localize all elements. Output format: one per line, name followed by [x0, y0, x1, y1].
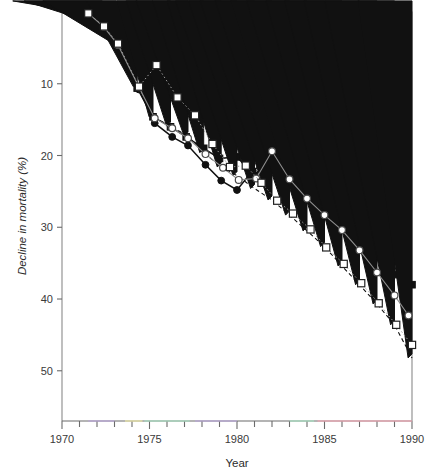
marker-open-circle	[321, 212, 328, 219]
marker-open-circle	[269, 148, 276, 155]
marker-filled-circle	[185, 142, 192, 149]
marker-open-square	[375, 300, 382, 307]
chart-container: 1020304050 19701975198019851990 Decline …	[0, 0, 432, 476]
y-tick-label: 10	[41, 78, 53, 90]
marker-open-square	[393, 321, 400, 328]
marker-open-square	[307, 226, 314, 233]
x-axis-title: Year	[225, 457, 248, 469]
marker-open-square	[114, 40, 121, 47]
x-tick-label: 1970	[50, 433, 74, 445]
marker-open-circle	[405, 312, 412, 319]
marker-filled-circle	[202, 161, 209, 168]
x-tick-label: 1985	[312, 433, 336, 445]
marker-open-circle	[374, 269, 381, 276]
marker-open-circle	[356, 247, 363, 254]
marker-open-square	[191, 112, 198, 119]
marker-open-circle	[286, 176, 293, 183]
marker-open-square	[85, 10, 92, 17]
marker-open-square	[242, 162, 249, 169]
marker-open-circle	[339, 227, 346, 234]
x-tick-label: 1980	[225, 433, 249, 445]
y-tick-label: 40	[41, 293, 53, 305]
y-tick-label: 50	[41, 365, 53, 377]
marker-open-circle	[169, 125, 176, 132]
marker-open-square	[340, 260, 347, 267]
y-axis-title: Decline in mortality (%)	[16, 157, 28, 275]
marker-open-circle	[151, 115, 158, 122]
marker-open-square	[289, 210, 296, 217]
marker-open-square	[358, 280, 365, 287]
marker-open-circle	[185, 135, 192, 142]
marker-open-circle	[304, 195, 311, 202]
marker-open-square	[100, 23, 107, 30]
marker-open-circle	[235, 177, 242, 184]
marker-open-square	[274, 197, 281, 204]
marker-open-square	[135, 83, 142, 90]
y-tick-label: 20	[41, 150, 53, 162]
marker-open-square	[323, 244, 330, 251]
marker-filled-circle	[169, 134, 176, 141]
marker-open-circle	[391, 292, 398, 299]
marker-open-square	[209, 140, 216, 147]
marker-open-square	[226, 163, 233, 170]
marker-open-square	[153, 62, 160, 69]
y-tick-label: 30	[41, 221, 53, 233]
marker-open-circle	[220, 164, 227, 171]
x-tick-label: 1975	[137, 433, 161, 445]
marker-filled-circle	[234, 187, 241, 194]
marker-open-circle	[202, 151, 209, 158]
mortality-decline-line-chart: 1020304050 19701975198019851990 Decline …	[0, 0, 432, 476]
x-tick-label: 1990	[400, 433, 424, 445]
marker-open-square	[174, 94, 181, 101]
marker-open-square	[258, 179, 265, 186]
marker-filled-circle	[218, 177, 225, 184]
marker-open-square	[408, 341, 415, 348]
